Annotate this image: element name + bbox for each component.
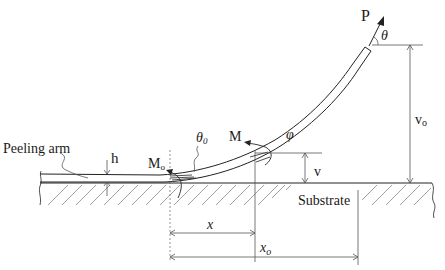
x-label: x [206, 217, 214, 232]
peel-force: P θ [361, 7, 388, 46]
v-dimension: v [255, 153, 322, 183]
root-angle-label: θ0 [196, 130, 208, 146]
section-moment-arrowhead [244, 140, 251, 146]
substrate: Substrate [39, 171, 435, 218]
substrate-label: Substrate [298, 193, 350, 208]
thickness-label: h [111, 150, 119, 166]
vo-label: vo [415, 112, 427, 128]
substrate-hatching [48, 185, 431, 205]
peeling-arm-label: Peeling arm [3, 141, 70, 156]
slope-angle-label: φ [286, 127, 294, 142]
peel-angle-label: θ [381, 28, 388, 43]
vo-dimension: vo [372, 45, 427, 183]
peeling-arm: Peeling arm [3, 47, 371, 182]
force-arrowhead [377, 16, 384, 26]
force-label: P [361, 7, 370, 24]
root-moment-label: Mo [148, 156, 165, 172]
peel-test-diagram: Substrate Peeling arm h Mo θ0 [0, 0, 445, 270]
v-label: v [314, 164, 321, 179]
peel-front: Mo θ0 [148, 130, 208, 262]
section-moment-label: M [229, 129, 242, 144]
xo-label: xo [259, 240, 271, 257]
